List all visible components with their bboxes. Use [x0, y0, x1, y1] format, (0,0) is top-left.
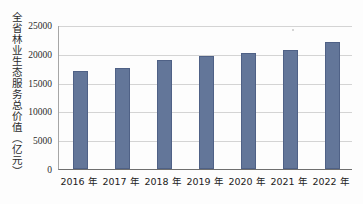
- bar[interactable]: [199, 56, 214, 169]
- x-tick-label: 2018 年: [142, 174, 184, 188]
- bar[interactable]: [241, 53, 256, 169]
- bar[interactable]: [325, 42, 340, 169]
- bar-slot: [59, 25, 101, 169]
- bar[interactable]: [283, 50, 298, 169]
- bar-slot: [143, 25, 185, 169]
- bar-chart: 全省林业生态服务总价值（亿元） 050001000015000200002500…: [0, 0, 363, 204]
- plot-area: [58, 26, 352, 170]
- bar-slot: [185, 25, 227, 169]
- scan-artifact-dot: [292, 29, 294, 31]
- y-axis-title: 全省林业生态服务总价值（亿元）: [6, 8, 26, 180]
- x-tick-label: 2019 年: [184, 174, 226, 188]
- x-tick-label: 2016 年: [58, 174, 100, 188]
- bar-slot: [311, 25, 353, 169]
- bar-slot: [269, 25, 311, 169]
- bar[interactable]: [115, 68, 130, 169]
- x-tick-label: 2020 年: [226, 174, 268, 188]
- bar[interactable]: [73, 71, 88, 169]
- bar-slot: [227, 25, 269, 169]
- x-tick-label: 2022 年: [310, 174, 352, 188]
- bar[interactable]: [157, 60, 172, 169]
- x-tick-label: 2021 年: [268, 174, 310, 188]
- bar-slot: [101, 25, 143, 169]
- x-tick-label: 2017 年: [100, 174, 142, 188]
